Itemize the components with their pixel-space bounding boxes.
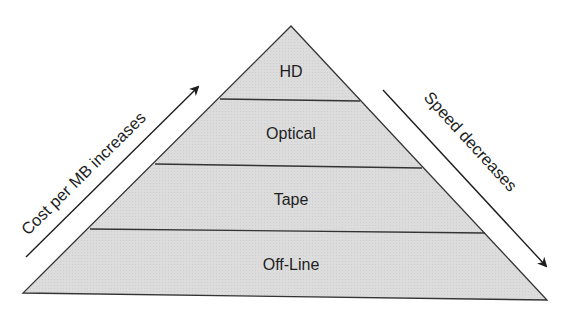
speed-arrow-label: Speed decreases (421, 88, 521, 195)
layer-label-off-line: Off-Line (263, 256, 320, 273)
layer-label-hd: HD (279, 63, 302, 80)
layer-label-optical: Optical (266, 125, 316, 142)
storage-pyramid-diagram: HD Optical Tape Off-Line Cost per MB inc… (0, 0, 575, 321)
layer-label-tape: Tape (274, 191, 309, 208)
